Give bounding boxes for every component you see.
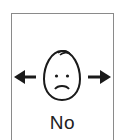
face-icon (44, 51, 80, 100)
left-arrow-icon (14, 70, 36, 84)
right-arrow-icon (88, 70, 111, 84)
card-label: No (11, 112, 114, 134)
